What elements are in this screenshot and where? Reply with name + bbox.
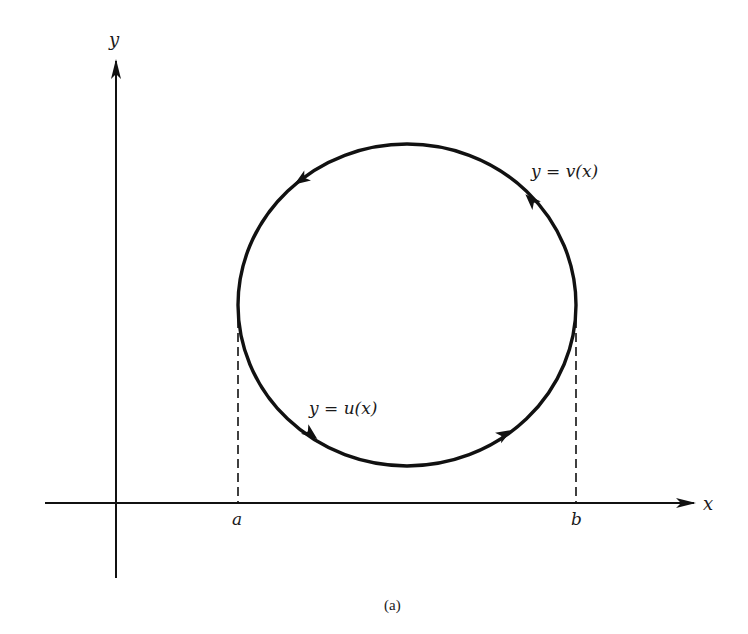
upper-curve-label: y = v(x) [531,163,598,180]
bound-a-label: a [232,511,242,528]
figure-caption: (a) [384,598,401,613]
curve-arrow-upper-right-icon [521,190,541,210]
bound-b-label: b [571,511,582,528]
lower-curve-label: y = u(x) [309,400,377,417]
closed-curve [238,144,576,466]
x-axis-label: x [703,495,713,513]
y-axis-label: y [109,31,119,49]
diagram-canvas [0,0,748,634]
